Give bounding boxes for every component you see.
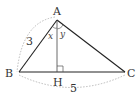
right-angle-mark [57,66,63,72]
label-a: A [52,5,62,18]
length-ab: 3 [26,35,33,48]
side-ab [19,20,57,72]
label-c: C [127,67,135,80]
angle-y-label: y [59,29,66,39]
ab-length-arc [17,17,55,72]
side-ac [57,20,125,72]
angle-x-label: x [48,31,53,41]
label-h: H [53,76,63,89]
length-bc: 5 [70,82,77,95]
triangle-diagram: A B C H 3 5 x y [0,0,140,103]
label-b: B [5,67,13,80]
angle-x-arc [53,27,57,28]
